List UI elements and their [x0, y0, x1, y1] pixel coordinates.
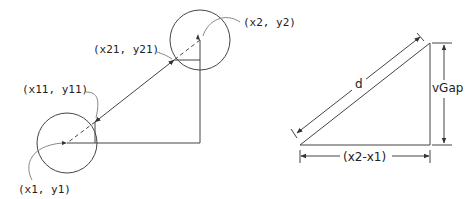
label-x2-minus-x1: (x2-x1)	[343, 150, 386, 164]
arrowhead-icon	[196, 34, 200, 40]
diagram-canvas: (x2, y2) (x21, y21) (x11, y11) (x1, y1) …	[0, 0, 476, 199]
right-diagram	[291, 33, 452, 163]
leader-lines	[29, 18, 240, 180]
connector-line	[95, 60, 174, 122]
arrowhead-icon	[62, 141, 67, 145]
label-x21-y21: (x21, y21)	[93, 43, 159, 56]
label-x2-y2: (x2, y2)	[243, 16, 296, 29]
label-x11-y11: (x11, y11)	[22, 83, 88, 96]
triangle	[300, 43, 430, 145]
extension-tick	[417, 33, 424, 41]
label-vgap: vGap	[432, 81, 463, 95]
label-x1-y1: (x1, y1)	[18, 183, 71, 196]
label-d: d	[355, 77, 363, 91]
dashed-segment	[174, 40, 200, 60]
extension-tick	[291, 129, 297, 138]
